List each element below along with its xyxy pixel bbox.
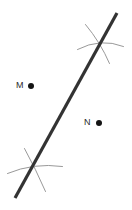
construction-figure: M N bbox=[0, 0, 132, 210]
bottom-arc-steep-path bbox=[25, 149, 46, 192]
point-n-label: N bbox=[84, 118, 91, 127]
figure-vector-layer bbox=[0, 0, 132, 210]
perpendicular-bisector-line bbox=[15, 13, 117, 198]
point-m-label: M bbox=[16, 81, 24, 90]
